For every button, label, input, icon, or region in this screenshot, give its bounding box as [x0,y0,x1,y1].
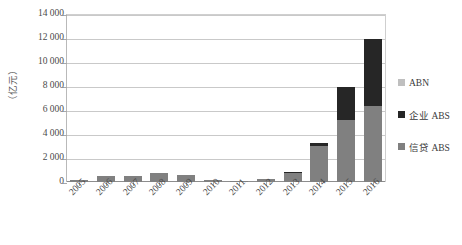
legend-swatch-icon [398,79,405,86]
y-tick-label: 2 000 [4,152,64,162]
legend-label: ABN [409,78,429,88]
y-tick-label: 6 000 [4,104,64,114]
bar-segment[interactable] [337,120,355,182]
bars-layer [66,14,386,182]
bar-chart: （亿元） 14 00012 00010 0008 0006 0004 0002 … [0,0,462,245]
legend-item[interactable]: 企业 ABS [398,108,462,121]
legend-item[interactable]: ABN [398,76,462,89]
legend-item[interactable]: 信贷 ABS [398,140,462,153]
legend-label: 信贷 ABS [409,140,450,154]
chart-legend: ABN企业 ABS信贷 ABS [398,76,462,172]
legend-swatch-icon [398,111,405,118]
y-tick-label: 4 000 [4,128,64,138]
legend-label: 企业 ABS [409,108,450,122]
bar-segment[interactable] [310,143,328,146]
y-tick-label: 14 000 [4,8,64,18]
bar-segment[interactable] [364,39,382,106]
y-tick-label: 8 000 [4,80,64,90]
bar-segment[interactable] [337,87,355,119]
y-tick-label: 12 000 [4,32,64,42]
bar-segment[interactable] [284,172,302,173]
y-tick-label: 10 000 [4,56,64,66]
legend-swatch-icon [398,143,405,150]
y-tick-label: 0 [4,176,64,186]
bar-segment[interactable] [364,106,382,182]
